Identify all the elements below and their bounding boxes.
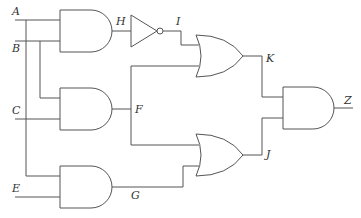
label-b: B [11, 42, 20, 55]
and-gate-2 [60, 88, 112, 130]
input-wires [15, 20, 60, 197]
not-bubble [157, 28, 163, 34]
and-gate-1 [60, 10, 112, 52]
label-f: F [134, 103, 143, 116]
label-i: I [175, 15, 181, 28]
logic-circuit-diagram: A B C E H I F G K J Z [0, 0, 361, 218]
wire-b-branch [40, 41, 60, 98]
wire-g [112, 166, 199, 187]
or-gate-2 [196, 134, 243, 176]
label-g: G [131, 189, 140, 202]
label-c: C [12, 104, 21, 117]
label-j: J [264, 148, 271, 161]
wire-k [243, 56, 283, 97]
label-k: K [265, 52, 275, 65]
wire-j [243, 118, 283, 155]
label-h: H [115, 15, 126, 28]
not-gate [131, 15, 157, 47]
label-a: A [11, 5, 20, 18]
label-z: Z [343, 94, 352, 107]
wire-i [163, 31, 199, 45]
and-gate-3 [60, 166, 112, 208]
label-e: E [11, 182, 20, 195]
and-gate-4 [283, 87, 334, 129]
or-gate-1 [196, 35, 243, 77]
